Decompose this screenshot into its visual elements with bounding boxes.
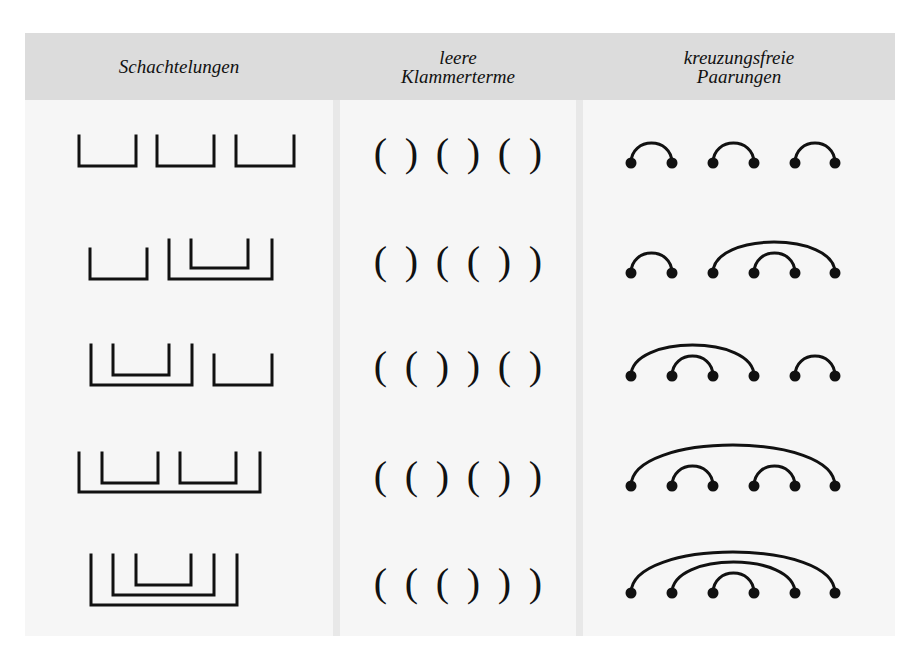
pairing-dot — [667, 371, 678, 382]
pairing-dot — [790, 371, 801, 382]
pairing-dot — [790, 158, 801, 169]
pairing-arc — [754, 466, 795, 486]
pairing-row-4 — [626, 445, 841, 491]
pairing-dot — [708, 481, 719, 492]
pairing-arc — [672, 466, 713, 486]
pairing-arc — [672, 356, 713, 376]
pairing-dot — [667, 588, 678, 599]
pairing-dot — [830, 268, 841, 279]
pairing-dot — [626, 158, 637, 169]
pairing-dot — [708, 371, 719, 382]
pairing-arc — [795, 356, 835, 376]
pairing-dot — [708, 268, 719, 279]
pairing-dot — [830, 588, 841, 599]
pairing-dot — [626, 588, 637, 599]
pairing-arc — [795, 143, 835, 163]
pairing-dot — [790, 268, 801, 279]
pairing-arc — [713, 242, 835, 273]
pairing-dot — [830, 158, 841, 169]
pairing-dot — [667, 481, 678, 492]
pairing-row-3 — [626, 345, 841, 381]
pairing-arc — [672, 562, 795, 593]
pairing-dot — [708, 588, 719, 599]
pairing-row-5 — [626, 552, 841, 598]
pairing-dot — [749, 371, 760, 382]
pairing-arc — [631, 143, 672, 163]
pairing-arc — [631, 253, 672, 273]
pairing-dot — [830, 371, 841, 382]
pairing-diagrams — [0, 0, 923, 661]
pairing-dot — [790, 588, 801, 599]
pairing-dot — [749, 588, 760, 599]
pairing-arc — [713, 143, 754, 163]
pairing-arc — [754, 253, 795, 273]
pairing-dot — [749, 158, 760, 169]
pairing-arc — [631, 445, 835, 486]
pairing-arc — [631, 345, 754, 376]
pairing-dot — [626, 371, 637, 382]
pairing-dot — [830, 481, 841, 492]
pairing-dot — [626, 268, 637, 279]
pairing-row-2 — [626, 242, 841, 278]
pairing-dot — [626, 481, 637, 492]
pairing-row-1 — [626, 143, 841, 168]
pairing-dot — [790, 481, 801, 492]
pairing-dot — [667, 268, 678, 279]
pairing-arc — [713, 573, 754, 593]
pairing-dot — [667, 158, 678, 169]
pairing-dot — [708, 158, 719, 169]
pairing-dot — [749, 481, 760, 492]
pairing-dot — [749, 268, 760, 279]
